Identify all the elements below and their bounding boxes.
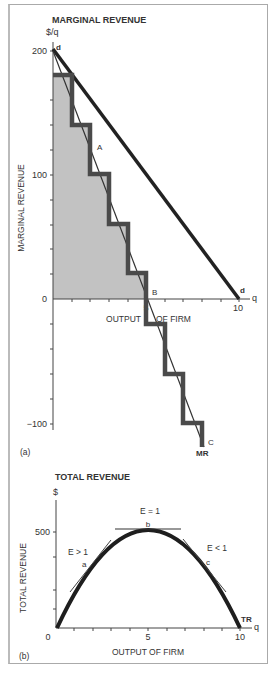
panel-a-xtick-10: 10	[233, 303, 243, 313]
panel-a-label: (a)	[20, 447, 31, 457]
panel-b-xunit: q	[254, 622, 259, 632]
panel-a-xunit: q	[252, 293, 257, 303]
panel-a-xlabel-left: OUTPUT	[106, 314, 141, 324]
panel-b-xlabel: OUTPUT OF FIRM	[112, 647, 184, 657]
panel-b-ylabel: TOTAL REVENUE	[18, 543, 28, 613]
label-point-a-tr: a	[82, 560, 87, 569]
panel-b-xtick-10: 10	[235, 632, 245, 642]
panel-a-ytick-neg100: −100	[27, 419, 47, 429]
label-point-a: A	[97, 143, 103, 152]
panel-b-xtick-0: 0	[45, 632, 50, 642]
panel-a: MARGINAL REVENUE $/q 200 100 0 −100 MARG	[16, 15, 257, 458]
label-d-bottom: d	[240, 286, 245, 295]
panel-b-yunit: $	[53, 487, 58, 497]
panel-a-ytick-0: 0	[42, 294, 47, 304]
label-e-less-1: E < 1	[207, 543, 227, 553]
label-point-c: C	[208, 438, 214, 447]
label-point-b-tr: b	[146, 520, 151, 529]
panel-a-ytick-100: 100	[32, 170, 47, 180]
panel-b-ytick-500: 500	[35, 527, 50, 537]
panel-a-title: MARGINAL REVENUE	[52, 15, 146, 25]
label-point-c-tr: c	[206, 558, 210, 567]
panel-a-yunit: $/q	[46, 27, 59, 37]
label-e-greater-1: E > 1	[68, 547, 88, 557]
label-e-equals-1: E = 1	[140, 506, 160, 516]
label-point-b: B	[152, 288, 157, 297]
label-d-top: d	[56, 43, 61, 52]
panel-a-ytick-200: 200	[32, 46, 47, 56]
panel-b-xtick-5: 5	[145, 632, 150, 642]
label-tr: TR	[241, 615, 252, 624]
label-mr: MR	[196, 449, 209, 458]
panel-b-label: (b)	[19, 651, 30, 661]
panel-b: TOTAL REVENUE $ 500 TOTAL REVENUE 0 5	[18, 472, 259, 661]
panel-a-ylabel: MARGINAL REVENUE	[16, 164, 26, 252]
figure: MARGINAL REVENUE $/q 200 100 0 −100 MARG	[0, 0, 278, 674]
panel-b-title: TOTAL REVENUE	[55, 472, 130, 482]
